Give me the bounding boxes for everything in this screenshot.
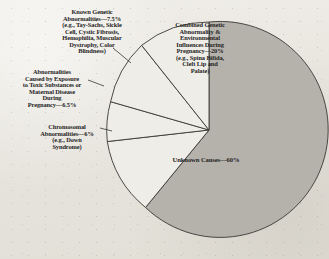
slice-label-known-genetic: Known Genetic Abnormalities—7.5% (e.g., … <box>36 9 148 55</box>
label-line: Pregnancy—6.5% <box>2 102 102 109</box>
slice-label-unknown-causes: Unknown Causes—60% <box>150 157 262 164</box>
label-line: Palate) <box>154 68 246 75</box>
label-line: Blindness) <box>36 48 148 55</box>
chart-canvas: Known Genetic Abnormalities—7.5% (e.g., … <box>0 0 329 259</box>
slice-label-chromosomal: Chromosomal Abnormalities—6% (e.g., Down… <box>20 124 114 150</box>
slice-label-combined-genetic-environmental: Combined Genetic Abnormality & Environme… <box>154 22 246 74</box>
slice-label-toxic-substances: Abnormalities Caused by Exposure to Toxi… <box>2 69 102 108</box>
label-line: Syndrome) <box>20 144 114 151</box>
label-line: Unknown Causes—60% <box>150 157 262 164</box>
